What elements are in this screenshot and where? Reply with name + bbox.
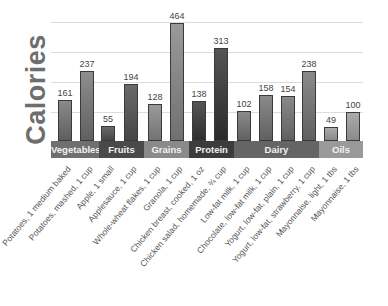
bar-chicken-breast — [192, 101, 206, 141]
bar-value: 313 — [206, 36, 236, 46]
bar-yogurt-plain — [281, 96, 295, 141]
bar-value: 128 — [140, 92, 170, 102]
bar-value: 154 — [273, 84, 303, 94]
group-band-protein: Protein — [189, 141, 234, 158]
bar-applesauce — [124, 84, 138, 141]
group-band-oils: Oils — [319, 141, 363, 158]
bar-value: 194 — [116, 72, 146, 82]
bar-value: 161 — [50, 88, 80, 98]
bar-mayonnaise — [346, 112, 360, 141]
y-axis-label: Calories — [21, 30, 52, 150]
bar-value: 49 — [316, 115, 346, 125]
bar-potatoes-baked — [58, 100, 72, 141]
group-band-fruits: Fruits — [99, 141, 144, 158]
bar-chicken-salad — [214, 48, 228, 141]
bar-value: 55 — [93, 114, 123, 124]
bar-potatoes-mashed — [80, 71, 94, 141]
bar-low-fat-milk — [237, 111, 251, 141]
bar-whole-wheat-flakes — [148, 104, 162, 141]
gridline — [51, 112, 363, 113]
bar-yogurt-strawberry — [302, 71, 316, 141]
group-band-vegetables: Vegetables — [51, 141, 99, 158]
gridline — [51, 52, 363, 53]
bar-mayonnaise-light — [324, 127, 338, 141]
calories-bar-chart: Calories 161 237 55 194 128 464 138 313 … — [0, 0, 388, 306]
bar-value: 238 — [294, 59, 324, 69]
bar-value: 237 — [72, 59, 102, 69]
bar-apple — [101, 126, 115, 141]
bar-value: 100 — [338, 100, 368, 110]
bar-value: 464 — [162, 11, 192, 21]
bar-value: 102 — [229, 99, 259, 109]
group-band-dairy: Dairy — [234, 141, 319, 158]
bar-value: 138 — [184, 89, 214, 99]
bar-granola — [170, 23, 184, 141]
gridline — [51, 82, 363, 83]
bar-chocolate-milk — [259, 95, 273, 141]
group-band-grains: Grains — [144, 141, 189, 158]
gridline — [51, 22, 363, 23]
